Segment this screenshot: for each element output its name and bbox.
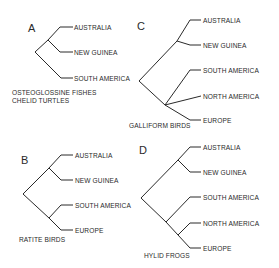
tip-south-america: SOUTH AMERICA xyxy=(203,67,259,74)
tip-south-america: SOUTH AMERICA xyxy=(75,202,131,209)
panel-c: C AUSTRALIA NEW GUINEA SOUTH AMERICA NOR… xyxy=(129,17,260,130)
caption-b: RATITE BIRDS xyxy=(19,236,66,243)
tip-new-guinea: NEW GUINEA xyxy=(203,169,247,176)
caption-d: HYLID FROGS xyxy=(144,252,190,259)
panel-letter-b: B xyxy=(21,154,28,166)
caption-a-line2: CHELID TURTLES xyxy=(12,97,70,104)
caption-a-line1: OSTEOGLOSSINE FISHES xyxy=(12,89,97,96)
tree-a-branches xyxy=(35,27,73,78)
cladogram-figure: A AUSTRALIA NEW GUINEA SOUTH AMERICA OST… xyxy=(0,0,279,268)
panel-b: B AUSTRALIA NEW GUINEA SOUTH AMERICA EUR… xyxy=(19,152,131,244)
panel-letter-c: C xyxy=(137,20,145,32)
panel-letter-d: D xyxy=(139,144,147,156)
tip-australia: AUSTRALIA xyxy=(75,152,113,159)
tip-australia: AUSTRALIA xyxy=(203,17,241,24)
tip-north-america: NORTH AMERICA xyxy=(203,220,260,227)
panel-letter-a: A xyxy=(28,22,36,34)
tip-south-america: SOUTH AMERICA xyxy=(74,75,130,82)
tip-south-america: SOUTH AMERICA xyxy=(203,194,259,201)
tree-d-branches xyxy=(141,147,201,248)
tree-b-branches xyxy=(23,155,73,230)
tip-new-guinea: NEW GUINEA xyxy=(74,49,118,56)
tip-new-guinea: NEW GUINEA xyxy=(75,177,119,184)
tip-europe: EUROPE xyxy=(203,117,232,124)
tree-c-branches xyxy=(139,20,201,120)
tip-north-america: NORTH AMERICA xyxy=(203,93,260,100)
tip-new-guinea: NEW GUINEA xyxy=(203,42,247,49)
panel-a: A AUSTRALIA NEW GUINEA SOUTH AMERICA OST… xyxy=(12,22,130,104)
tip-europe: EUROPE xyxy=(203,245,232,252)
tip-australia: AUSTRALIA xyxy=(74,24,112,31)
tip-europe: EUROPE xyxy=(75,227,104,234)
tip-australia: AUSTRALIA xyxy=(203,144,241,151)
caption-c: GALLIFORM BIRDS xyxy=(129,122,191,129)
panel-d: D AUSTRALIA NEW GUINEA SOUTH AMERICA NOR… xyxy=(139,144,260,260)
